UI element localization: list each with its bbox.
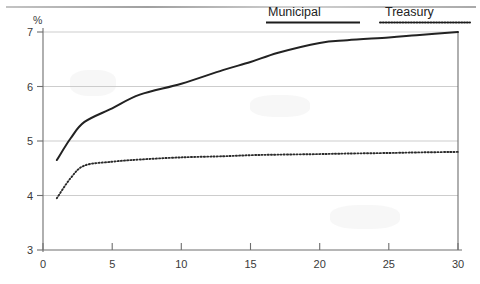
y-axis-ticks	[37, 32, 43, 250]
x-tick-label-15: 15	[244, 258, 256, 270]
series-line-treasury	[57, 152, 458, 198]
legend: Municipal Treasury	[266, 5, 470, 23]
x-tick-label-5: 5	[109, 258, 115, 270]
yield-curve-chart: 7 6 5 4 3 % 0 5 10 15 20 25 30	[0, 0, 480, 284]
y-tick-label-4: 4	[27, 190, 33, 202]
legend-label-municipal: Municipal	[268, 5, 321, 19]
y-tick-label-7: 7	[27, 26, 33, 38]
gridlines	[43, 32, 458, 196]
y-tick-label-5: 5	[27, 135, 33, 147]
x-axis-tick-labels: 0 5 10 15 20 25 30	[40, 258, 464, 270]
x-axis-ticks	[43, 243, 458, 250]
x-tick-label-20: 20	[314, 258, 326, 270]
y-axis-unit-label: %	[33, 14, 42, 26]
x-tick-label-30: 30	[452, 258, 464, 270]
x-tick-label-25: 25	[383, 258, 395, 270]
y-tick-label-3: 3	[27, 244, 33, 256]
chart-canvas: 7 6 5 4 3 % 0 5 10 15 20 25 30	[0, 0, 480, 284]
x-tick-label-10: 10	[175, 258, 187, 270]
y-axis-tick-labels: 7 6 5 4 3	[27, 26, 33, 256]
x-tick-label-0: 0	[40, 258, 46, 270]
y-tick-label-6: 6	[27, 81, 33, 93]
legend-label-treasury: Treasury	[385, 5, 435, 19]
